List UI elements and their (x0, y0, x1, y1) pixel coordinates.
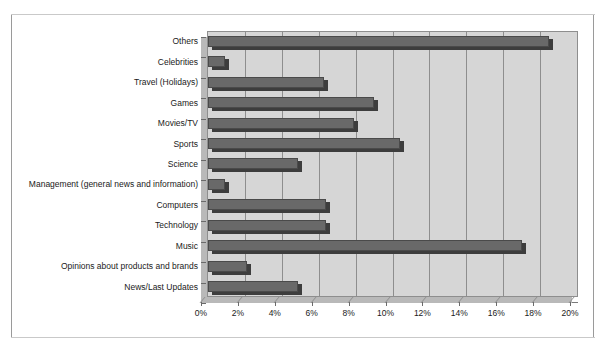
y-axis-tick (201, 37, 206, 38)
y-axis-tick (201, 139, 206, 140)
x-axis-label: 16% (476, 308, 516, 318)
y-axis-tick (201, 221, 206, 222)
x-axis-label: 0% (181, 308, 221, 318)
y-axis-tick-labels: OthersCelebritiesTravel (Holidays)GamesM… (0, 31, 605, 297)
y-axis-tick (201, 201, 206, 202)
y-axis-tick (201, 119, 206, 120)
x-axis-tick-labels: 0%2%4%6%8%10%12%14%16%18%20% (0, 302, 605, 322)
y-axis-label: Travel (Holidays) (0, 77, 198, 87)
x-axis-label: 12% (402, 308, 442, 318)
x-axis-label: 18% (513, 308, 553, 318)
x-axis-label: 8% (329, 308, 369, 318)
y-axis-label: Movies/TV (0, 118, 198, 128)
x-axis-label: 20% (550, 308, 590, 318)
y-axis-tick (201, 98, 206, 99)
y-axis-tick (201, 78, 206, 79)
x-axis-label: 6% (292, 308, 332, 318)
y-axis-label: Computers (0, 200, 198, 210)
y-axis-label: Opinions about products and brands (0, 261, 198, 271)
y-axis-tick (201, 262, 206, 263)
x-axis-label: 4% (255, 308, 295, 318)
y-axis-label: Others (0, 36, 198, 46)
x-axis-label: 14% (439, 308, 479, 318)
y-axis-label: Science (0, 159, 198, 169)
y-axis-tick (201, 160, 206, 161)
y-axis-tick (201, 242, 206, 243)
y-axis-tick (201, 57, 206, 58)
y-axis-tick (201, 283, 206, 284)
y-axis-label: Music (0, 241, 198, 251)
y-axis-label: Celebrities (0, 57, 198, 67)
x-axis-label: 10% (366, 308, 406, 318)
page-frame-bottom-edge (11, 337, 595, 338)
y-axis-label: Sports (0, 139, 198, 149)
y-axis-label: Technology (0, 220, 198, 230)
page-frame-top-edge (11, 14, 595, 15)
y-axis-label: News/Last Updates (0, 282, 198, 292)
y-axis-tick (201, 180, 206, 181)
y-axis-label: Management (general news and information… (0, 179, 198, 189)
x-axis-label: 2% (218, 308, 258, 318)
chart-root: OthersCelebritiesTravel (Holidays)GamesM… (0, 0, 605, 350)
y-axis-label: Games (0, 98, 198, 108)
